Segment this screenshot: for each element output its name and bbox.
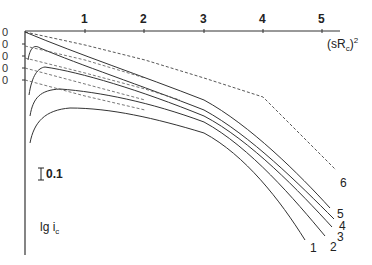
curve-label-6: 6 (340, 176, 347, 190)
x-axis-title-sup: 2 (354, 36, 358, 45)
y-zero-label-5: 0 (2, 74, 8, 86)
curve-label-1: 1 (310, 241, 317, 255)
y-zero-label-1: 0 (2, 26, 8, 38)
y-axis-title-main: lg i (40, 220, 55, 234)
scale-bar-icon (38, 168, 44, 180)
curve-2 (30, 89, 325, 236)
y-zero-label-3: 0 (2, 50, 8, 62)
x-tick-label-1: 1 (81, 12, 88, 26)
curve-5 (25, 32, 330, 208)
curve-label-2: 2 (330, 240, 337, 254)
y-zero-label-2: 0 (2, 38, 8, 50)
x-tick-label-5: 5 (318, 12, 325, 26)
x-tick-label-3: 3 (200, 12, 207, 26)
x-axis-title-main: (sR (327, 37, 346, 51)
y-axis-title-sub: c (55, 227, 59, 236)
curve-label-4: 4 (339, 219, 346, 233)
curve-3-asymptote (25, 58, 180, 100)
x-axis-title: (sRc)2 (327, 36, 358, 53)
y-zero-label-4: 0 (2, 62, 8, 74)
y-axis-title: lg ic (40, 220, 59, 236)
scale-bar-label: 0.1 (46, 167, 63, 181)
x-tick-label-2: 2 (140, 12, 147, 26)
x-tick-label-4: 4 (259, 12, 266, 26)
curve-label-5: 5 (337, 207, 344, 221)
curve-1 (30, 108, 305, 240)
